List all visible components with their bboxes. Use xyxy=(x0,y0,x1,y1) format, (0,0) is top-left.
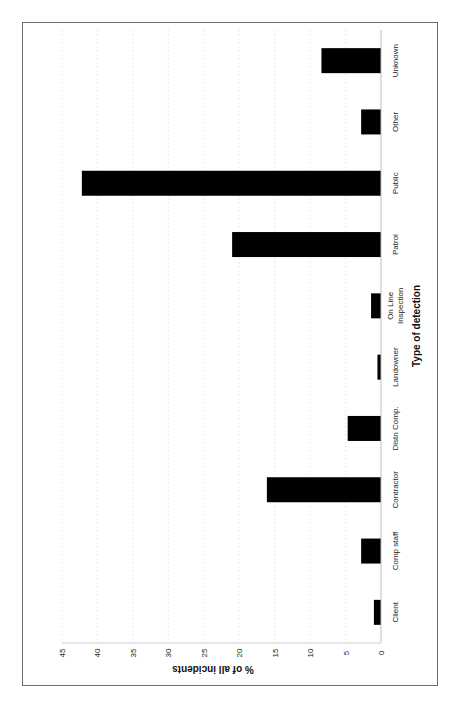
bar xyxy=(371,293,381,318)
category-label: Patrol xyxy=(391,234,400,255)
category-label: Public xyxy=(391,172,400,194)
value-tick-label: 30 xyxy=(164,648,173,657)
bar xyxy=(374,600,381,625)
bar xyxy=(361,109,381,134)
y-axis-title: % of all incidents xyxy=(172,664,254,675)
value-tick-label: 25 xyxy=(200,648,209,657)
category-label: Comp staff xyxy=(391,531,400,570)
category-label: On Line xyxy=(386,291,395,320)
bars xyxy=(82,48,381,625)
category-label: Landowner xyxy=(391,347,400,387)
value-tick-label: 0 xyxy=(377,650,386,655)
category-label: Unknown xyxy=(391,44,400,77)
category-label: Contractor xyxy=(391,471,400,509)
category-axis-labels: ClientComp staffContractorDistn Comp.Lan… xyxy=(386,44,405,623)
value-tick-label: 45 xyxy=(58,648,67,657)
bar-chart: 051015202530354045 ClientComp staffContr… xyxy=(0,0,462,711)
value-tick-label: 15 xyxy=(271,648,280,657)
bar xyxy=(377,355,381,380)
value-tick-label: 35 xyxy=(129,648,138,657)
value-tick-label: 5 xyxy=(342,650,351,655)
bar xyxy=(267,477,381,502)
category-label: Other xyxy=(391,112,400,132)
bar xyxy=(321,48,381,73)
category-label: Inspection xyxy=(396,288,405,324)
gridlines xyxy=(62,30,346,643)
bar xyxy=(82,171,381,196)
bar xyxy=(348,416,381,441)
bar xyxy=(232,232,381,257)
value-axis-ticks: 051015202530354045 xyxy=(58,648,386,657)
value-tick-label: 10 xyxy=(306,648,315,657)
category-label: Distn Comp. xyxy=(391,406,400,450)
value-tick-label: 20 xyxy=(235,648,244,657)
x-axis-title: Type of detection xyxy=(411,285,422,367)
bar xyxy=(361,539,381,564)
value-tick-label: 40 xyxy=(93,648,102,657)
category-label: Client xyxy=(391,601,400,622)
